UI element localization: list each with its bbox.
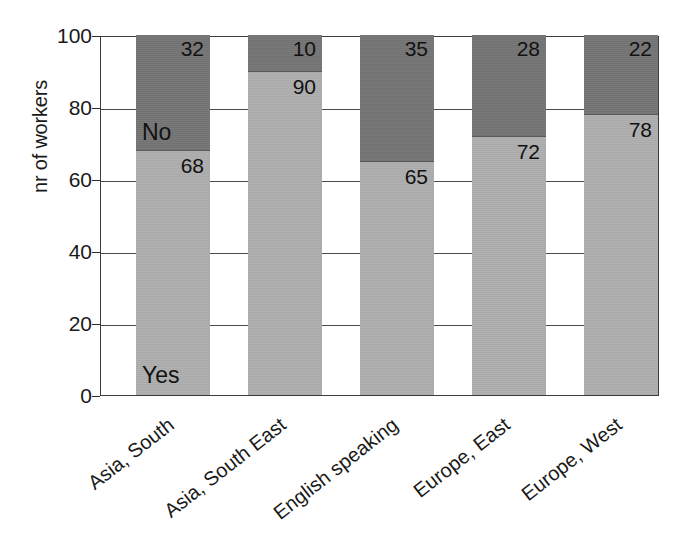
bar-group-asia-south[interactable]: 32 No 68 Yes	[136, 35, 210, 395]
series-label-yes: Yes	[142, 364, 180, 387]
bar-segment-no[interactable]: 28	[472, 35, 546, 136]
y-tick-20: 20	[32, 313, 92, 334]
bar-value-no: 10	[293, 38, 316, 59]
y-tick-60: 60	[32, 169, 92, 190]
bar-value-yes: 65	[405, 166, 428, 187]
bar-group-europe-east[interactable]: 28 72	[472, 35, 546, 395]
bar-segment-yes[interactable]: 68 Yes	[136, 150, 210, 395]
tickmark-20	[92, 324, 100, 325]
tickmark-40	[92, 252, 100, 253]
bar-value-no: 28	[517, 38, 540, 59]
bar-segment-no[interactable]: 10	[248, 35, 322, 71]
y-tick-80: 80	[32, 97, 92, 118]
bar-value-yes: 90	[293, 76, 316, 97]
bar-value-no: 35	[405, 38, 428, 59]
series-label-no: No	[142, 121, 171, 144]
bar-segment-no[interactable]: 22	[584, 35, 658, 114]
tickmark-60	[92, 180, 100, 181]
tickmark-100	[92, 36, 100, 37]
x-axis-category-labels: Asia, South Asia, South East English spe…	[0, 396, 688, 544]
bar-value-yes: 78	[629, 119, 652, 140]
stacked-bar-chart: nr of workers 100 80 60 40 20 0 32 No	[0, 0, 688, 544]
bar-value-yes: 72	[517, 141, 540, 162]
bar-group-asia-south-east[interactable]: 10 90	[248, 35, 322, 395]
bar-group-english-speaking[interactable]: 35 65	[360, 35, 434, 395]
bar-segment-no[interactable]: 35	[360, 35, 434, 161]
plot-area: 32 No 68 Yes 10 90 35 65	[100, 36, 659, 396]
bar-value-no: 32	[181, 38, 204, 59]
bar-segment-yes[interactable]: 78	[584, 114, 658, 395]
y-tick-40: 40	[32, 241, 92, 262]
bar-segment-yes[interactable]: 72	[472, 136, 546, 395]
bar-segment-yes[interactable]: 65	[360, 161, 434, 395]
bar-value-no: 22	[629, 38, 652, 59]
tickmark-80	[92, 108, 100, 109]
bar-group-europe-west[interactable]: 22 78	[584, 35, 658, 395]
bar-segment-no[interactable]: 32 No	[136, 35, 210, 150]
y-tick-100: 100	[32, 25, 92, 46]
bar-value-yes: 68	[181, 155, 204, 176]
bar-segment-yes[interactable]: 90	[248, 71, 322, 395]
